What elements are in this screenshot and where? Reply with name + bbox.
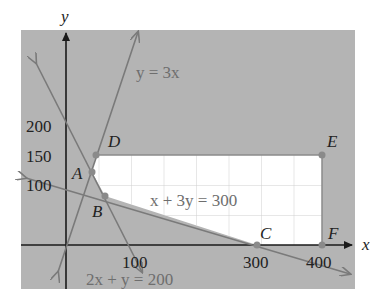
y-axis-label: y (59, 7, 69, 26)
y-tick-100: 100 (26, 176, 52, 195)
equation-2x-plus-y-equals-200: 2x + y = 200 (86, 270, 173, 289)
y-tick-200: 200 (26, 117, 52, 136)
label-d: D (107, 132, 121, 151)
y-tick-150: 150 (26, 147, 52, 166)
x-tick-300: 300 (243, 253, 269, 272)
label-c: C (260, 224, 272, 243)
point-e (319, 152, 326, 159)
point-b (102, 193, 109, 200)
point-d (93, 152, 100, 159)
linear-programming-diagram: y x 200 150 100 100 300 400 D A B C E F … (0, 0, 387, 303)
equation-y-equals-3x: y = 3x (136, 63, 180, 82)
label-f: F (327, 224, 339, 243)
label-a: A (71, 164, 83, 183)
label-e: E (326, 132, 338, 151)
label-b: B (92, 202, 103, 221)
equation-x-plus-3y-equals-300: x + 3y = 300 (150, 191, 237, 210)
x-axis-label: x (361, 235, 370, 254)
x-tick-400: 400 (306, 253, 332, 272)
point-f (319, 242, 326, 249)
point-a (89, 169, 96, 176)
